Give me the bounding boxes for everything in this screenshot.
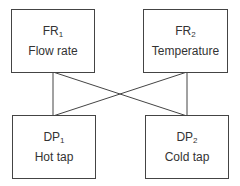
node-fr1: FR1 Flow rate [11, 9, 95, 73]
node-label: Temperature [152, 43, 219, 59]
node-dp1: DP1 Hot tap [12, 115, 96, 179]
node-dp2: DP2 Cold tap [145, 115, 229, 179]
node-fr2: FR2 Temperature [143, 9, 228, 73]
node-label: Cold tap [165, 149, 210, 165]
node-code: FR1 [43, 23, 63, 43]
node-label: Flow rate [28, 43, 77, 59]
node-label: Hot tap [35, 149, 74, 165]
node-code: FR2 [175, 23, 195, 43]
node-code: DP1 [43, 129, 64, 149]
node-code: DP2 [176, 129, 197, 149]
